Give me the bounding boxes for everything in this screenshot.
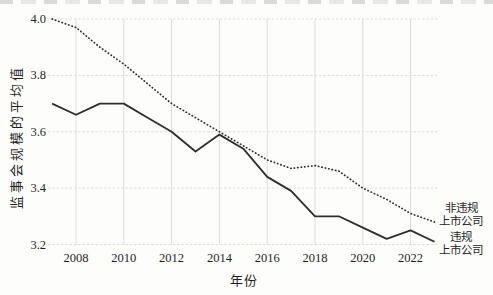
x-tick-label: 2016 — [249, 251, 285, 265]
legend-violating-line2: 上市公司 — [424, 244, 493, 257]
legend-nonviolating-line1: 非违规 — [424, 202, 493, 215]
y-tick-label: 3.4 — [10, 180, 46, 196]
series-line-violating — [52, 104, 434, 242]
legend-violating-line1: 违规 — [424, 231, 493, 244]
y-tick-label: 4.0 — [10, 11, 46, 27]
series-line-nonviolating — [52, 19, 434, 222]
x-tick-label: 2018 — [297, 251, 333, 265]
legend-label-nonviolating-companies: 非违规 上市公司 — [424, 202, 493, 228]
x-tick-label: 2010 — [106, 251, 142, 265]
y-tick-label: 3.8 — [10, 67, 46, 83]
x-tick-label: 2020 — [345, 251, 381, 265]
x-tick-label: 2014 — [201, 251, 237, 265]
legend-label-violating-companies: 违规 上市公司 — [424, 231, 493, 257]
x-tick-label: 2022 — [393, 251, 429, 265]
x-axis-title: 年份 — [204, 274, 284, 288]
y-tick-label: 3.2 — [10, 237, 46, 253]
x-tick-label: 2008 — [58, 251, 94, 265]
legend-nonviolating-line2: 上市公司 — [424, 215, 493, 228]
x-tick-label: 2012 — [154, 251, 190, 265]
figure: 监事会规模的平均值 年份 非违规 上市公司 违规 上市公司 4.03.83.63… — [0, 0, 493, 295]
y-tick-label: 3.6 — [10, 124, 46, 140]
